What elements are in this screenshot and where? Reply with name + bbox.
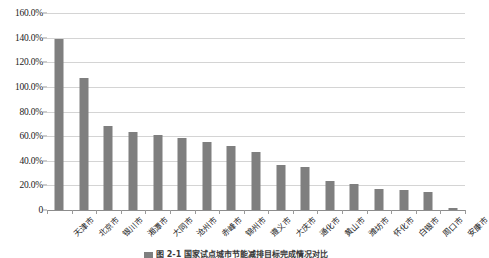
x-axis-category-label: 怀化市 [391, 214, 416, 239]
y-axis-tick-label: 60.0% [0, 131, 43, 141]
x-axis-category-label: 大同市 [170, 214, 195, 239]
bar [399, 190, 408, 210]
y-axis-tick-label: 140.0% [0, 33, 43, 43]
bar [104, 126, 113, 210]
x-axis-category-label: 遵义市 [268, 214, 293, 239]
bar [350, 184, 359, 210]
x-axis-category-label: 通化市 [317, 214, 342, 239]
x-axis-category-label: 北京市 [96, 214, 121, 239]
x-axis-category-label: 锦州市 [243, 214, 268, 239]
y-axis-tick-label: 20.0% [0, 180, 43, 190]
x-axis-category-label: 白银市 [416, 214, 441, 239]
bar [424, 192, 433, 210]
bar [129, 132, 138, 210]
x-axis-category-label: 安康市 [465, 214, 489, 239]
bar-slot [47, 13, 72, 210]
bar [251, 152, 260, 210]
bar-slot [293, 13, 318, 210]
y-axis-tick-label: 160.0% [0, 8, 43, 18]
bar [276, 165, 285, 210]
x-axis-category-label: 周口市 [440, 214, 465, 239]
bar [325, 181, 334, 210]
bar-slot [317, 13, 342, 210]
x-axis-category-label: 天津市 [71, 214, 96, 239]
x-axis-category-label: 银川市 [120, 214, 145, 239]
bar-slot [72, 13, 97, 210]
x-axis-category-label: 黄山市 [342, 214, 367, 239]
bar-slot [145, 13, 170, 210]
bar-slot [244, 13, 269, 210]
bar-slot [121, 13, 146, 210]
bar [374, 189, 383, 210]
bar [227, 146, 236, 210]
x-axis-category-label: 湘潭市 [145, 214, 170, 239]
bar-slot [195, 13, 220, 210]
bar-slot [170, 13, 195, 210]
bar-slot [268, 13, 293, 210]
x-axis-category-label: 沧州市 [194, 214, 219, 239]
bar-slot [96, 13, 121, 210]
bar-slot [440, 13, 465, 210]
bar [202, 142, 211, 210]
y-axis-tick-label: 100.0% [0, 82, 43, 92]
bar-series [47, 13, 465, 210]
bar-slot [367, 13, 392, 210]
caption-text: 图 2-1 国家试点城市节能减排目标完成情况对比 [156, 250, 328, 258]
bar-slot [342, 13, 367, 210]
y-axis-tick-label: 120.0% [0, 57, 43, 67]
bar [55, 39, 64, 210]
y-axis-tick-label: 80.0% [0, 107, 43, 117]
x-axis-category-label: 大庆市 [293, 214, 318, 239]
x-axis-category-label: 赤峰市 [219, 214, 244, 239]
bar [153, 135, 162, 210]
figure-caption: 图 2-1 国家试点城市节能减排目标完成情况对比 [0, 248, 472, 258]
legend-swatch-icon [144, 252, 153, 258]
x-axis-line [47, 210, 465, 211]
x-axis-labels: 天津市北京市银川市湘潭市大同市沧州市赤峰市锦州市遵义市大庆市通化市黄山市潍坊市怀… [47, 214, 465, 248]
bar [79, 78, 88, 210]
y-axis-tick-label: 0 [0, 205, 43, 215]
bar-slot [416, 13, 441, 210]
bar [178, 138, 187, 210]
bar-slot [219, 13, 244, 210]
x-axis-tick-mark [465, 210, 466, 214]
x-axis-category-label: 潍坊市 [366, 214, 391, 239]
bar [301, 167, 310, 210]
bar-slot [391, 13, 416, 210]
y-axis-tick-label: 40.0% [0, 156, 43, 166]
